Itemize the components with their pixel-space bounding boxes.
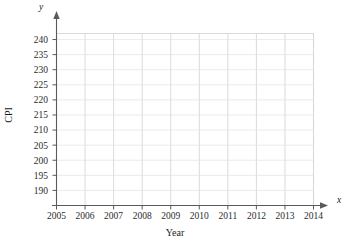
x-axis-title: Year <box>166 227 185 238</box>
y-tick-label: 205 <box>34 141 49 151</box>
y-tick-label: 225 <box>34 80 49 90</box>
y-tick-label: 240 <box>34 35 49 45</box>
x-tick-label: 2008 <box>133 211 152 221</box>
x-tick-label: 2014 <box>304 211 323 221</box>
y-tick-label: 220 <box>34 95 49 105</box>
x-axis-variable-label: x <box>336 195 342 205</box>
y-tick-label: 210 <box>34 125 49 135</box>
cpi-vs-year-chart: 190195200205210215220225230235240 200520… <box>0 0 347 241</box>
y-tick-label: 195 <box>34 171 49 181</box>
x-tick-label: 2010 <box>190 211 209 221</box>
chart-background <box>0 0 347 241</box>
x-tick-label: 2012 <box>247 211 266 221</box>
y-axis-title: CPI <box>3 107 14 123</box>
x-tick-label: 2007 <box>104 211 123 221</box>
y-tick-label: 215 <box>34 110 49 120</box>
x-tick-label: 2005 <box>47 211 66 221</box>
y-tick-label: 230 <box>34 65 49 75</box>
y-axis-variable-label: y <box>38 2 44 12</box>
y-tick-label: 190 <box>34 186 49 196</box>
y-tick-label: 200 <box>34 156 49 166</box>
x-tick-label: 2011 <box>219 211 238 221</box>
x-tick-label: 2006 <box>76 211 95 221</box>
y-tick-label: 235 <box>34 50 49 60</box>
chart-canvas: 190195200205210215220225230235240 200520… <box>0 0 347 241</box>
x-tick-label: 2009 <box>161 211 180 221</box>
y-axis-tick-labels: 190195200205210215220225230235240 <box>34 35 49 196</box>
x-tick-label: 2013 <box>275 211 294 221</box>
